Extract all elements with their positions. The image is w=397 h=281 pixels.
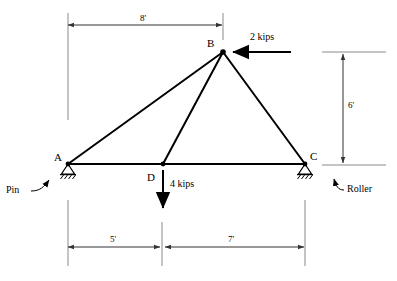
load-label-4kips: 4 kips [170,179,194,189]
member-BC [223,52,305,164]
truss-joints [66,49,308,166]
extension-lines [68,13,386,266]
load-label-2kips: 2 kips [250,32,274,42]
joint-dot-B [220,49,226,55]
joint-label-D: D [147,172,155,183]
roller-support-hatching [298,175,313,179]
dimension-label-7ft: 7' [228,235,234,244]
dimension-arrow-lines [68,25,343,247]
joint-label-A: A [54,152,62,163]
truss-diagram-canvas: A B C D 2 kips 4 kips 8' 6' 5' 7' Pin Ro… [0,0,397,281]
dimension-label-6ft: 6' [348,101,354,110]
support-label-pin: Pin [6,185,19,195]
dimension-label-8ft: 8' [140,14,146,23]
joint-label-C: C [310,151,317,162]
joint-label-B: B [207,38,214,49]
truss-members [68,52,305,164]
joint-dot-D [161,162,166,167]
pin-support-hatching [61,175,76,179]
roller-leader-line [334,179,344,190]
member-AB [68,52,223,164]
pin-leader-line [31,180,49,191]
truss-diagram-svg [0,0,397,281]
dimension-label-5ft: 5' [110,235,116,244]
member-BD [163,52,223,164]
support-label-roller: Roller [347,184,372,194]
